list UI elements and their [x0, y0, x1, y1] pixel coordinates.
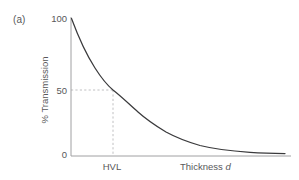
- y-tick-label-100: 100: [51, 13, 67, 24]
- transmission-curve: [72, 19, 286, 154]
- x-marker-label-hvl: HVL: [103, 161, 121, 172]
- x-axis-title: Thickness d: [180, 161, 231, 172]
- x-axis-title-text: Thickness: [180, 161, 223, 172]
- x-axis-title-variable: d: [225, 161, 230, 172]
- y-axis-title: % Transmission: [39, 56, 50, 123]
- y-tick-label-0: 0: [62, 149, 67, 160]
- figure-panel: (a) 100 50 0 % Transmission HVL Thicknes…: [0, 0, 299, 180]
- y-tick-label-50: 50: [56, 85, 67, 96]
